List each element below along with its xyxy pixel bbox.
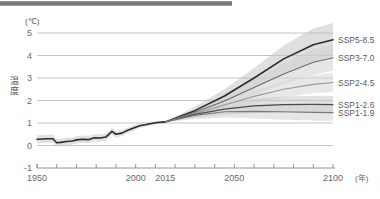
- y-axis-title: 温度: [10, 76, 19, 96]
- climate-projection-chart: 543210-1(℃)温度19502000201520502100(年)SSP5…: [0, 0, 380, 199]
- y-tick-label-3: 3: [27, 73, 32, 83]
- y-tick-label-4: 4: [27, 51, 32, 61]
- legend-label-ssp3-7-0: SSP3-7.0: [338, 53, 375, 63]
- chart-canvas: 543210-1(℃)温度19502000201520502100(年)SSP5…: [0, 0, 380, 199]
- y-tick-label-1: 1: [27, 118, 32, 128]
- x-tick-label-2100: 2100: [323, 173, 343, 183]
- x-tick-label-2015: 2015: [155, 173, 175, 183]
- y-tick-label-5: 5: [27, 28, 32, 38]
- legend-label-ssp2-4-5: SSP2-4.5: [338, 78, 375, 88]
- y-tick-label--1: -1: [24, 163, 32, 173]
- legend-label-ssp1-1-9: SSP1-1.9: [338, 108, 375, 118]
- x-tick-label-1950: 1950: [27, 173, 47, 183]
- x-axis-unit: (年): [355, 173, 369, 183]
- x-tick-label-2000: 2000: [126, 173, 146, 183]
- x-tick-label-2050: 2050: [224, 173, 244, 183]
- legend-label-ssp5-8-5: SSP5-8.5: [338, 35, 375, 45]
- y-tick-label-2: 2: [27, 96, 32, 106]
- y-axis-unit: (℃): [25, 17, 40, 26]
- y-tick-label-0: 0: [27, 141, 32, 151]
